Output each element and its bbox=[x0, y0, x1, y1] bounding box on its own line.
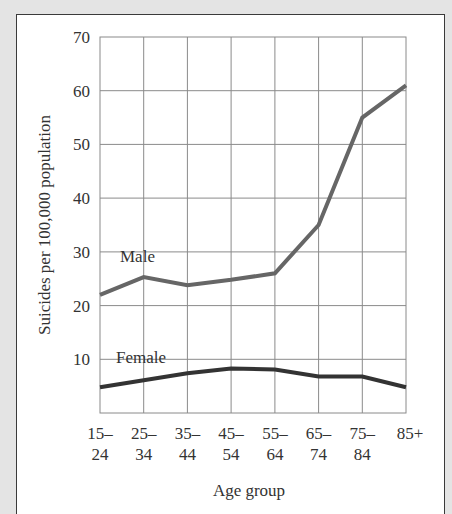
x-tick-75-84-top: 75– bbox=[350, 424, 376, 443]
x-tick-55-64-top: 55– bbox=[262, 424, 288, 443]
x-tick-15-24-top: 15– bbox=[87, 424, 113, 443]
x-tick-15-24-bottom: 24 bbox=[92, 445, 110, 464]
x-axis-ticks: 15– 24 25– 34 35– 44 45– 54 55– 64 65– 7… bbox=[87, 424, 423, 464]
y-tick-60: 60 bbox=[73, 82, 90, 101]
x-tick-25-34-bottom: 34 bbox=[135, 445, 153, 464]
x-axis-label: Age group bbox=[213, 481, 285, 500]
x-tick-85-plus: 85+ bbox=[397, 424, 424, 443]
y-tick-70: 70 bbox=[73, 28, 90, 47]
x-tick-65-74-top: 65– bbox=[306, 424, 332, 443]
y-axis-label: Suicides per 100,000 population bbox=[35, 114, 54, 335]
y-tick-50: 50 bbox=[73, 135, 90, 154]
x-tick-45-54-bottom: 54 bbox=[223, 445, 241, 464]
x-tick-75-84-bottom: 84 bbox=[354, 445, 372, 464]
y-axis-ticks: 70 60 50 40 30 20 10 bbox=[73, 28, 90, 369]
x-tick-55-64-bottom: 64 bbox=[266, 445, 284, 464]
male-series-label: Male bbox=[120, 247, 155, 266]
y-tick-40: 40 bbox=[73, 189, 90, 208]
y-tick-20: 20 bbox=[73, 297, 90, 316]
y-tick-30: 30 bbox=[73, 243, 90, 262]
female-series-line bbox=[100, 368, 406, 387]
x-tick-35-44-bottom: 44 bbox=[179, 445, 197, 464]
x-tick-25-34-top: 25– bbox=[131, 424, 157, 443]
y-tick-10: 10 bbox=[73, 350, 90, 369]
x-tick-65-74-bottom: 74 bbox=[310, 445, 328, 464]
x-tick-35-44-top: 35– bbox=[175, 424, 201, 443]
x-tick-45-54-top: 45– bbox=[218, 424, 244, 443]
female-series-label: Female bbox=[116, 348, 166, 367]
